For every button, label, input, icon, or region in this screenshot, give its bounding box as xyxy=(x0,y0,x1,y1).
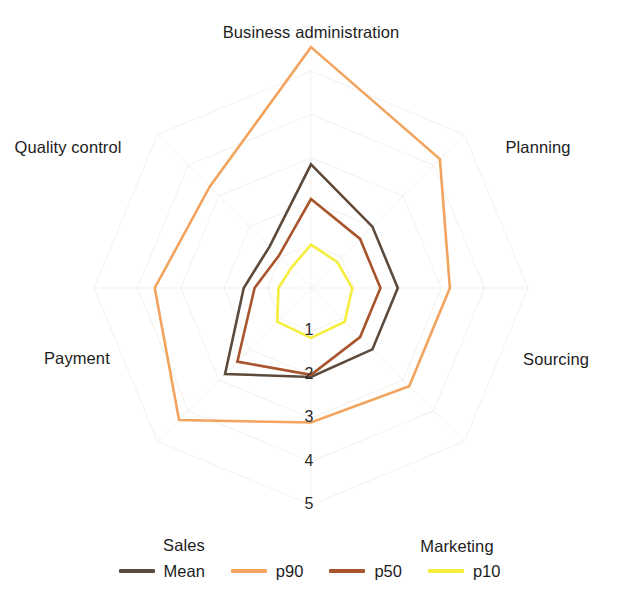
legend-item-mean[interactable]: Mean xyxy=(119,563,205,580)
radial-tick-2: 2 xyxy=(305,366,314,382)
legend-label-mean: Mean xyxy=(164,563,205,580)
legend-swatch-p10 xyxy=(428,569,464,573)
legend-swatch-mean xyxy=(119,569,155,573)
radial-tick-5: 5 xyxy=(305,496,314,512)
axis-label-payment: Payment xyxy=(44,350,110,367)
axis-label-marketing: Marketing xyxy=(420,538,493,555)
series-p90 xyxy=(155,47,450,422)
axis-label-sales: Sales xyxy=(163,537,205,554)
radar-series-layer xyxy=(155,47,450,422)
grid-spoke xyxy=(158,288,311,441)
legend-label-p10: p10 xyxy=(473,563,501,580)
axis-label-sourcing: Sourcing xyxy=(523,351,589,368)
legend-item-p50[interactable]: p50 xyxy=(329,563,402,580)
radial-tick-4: 4 xyxy=(305,453,314,469)
legend-swatch-p50 xyxy=(329,569,365,573)
series-p50 xyxy=(237,199,380,375)
legend-item-p10[interactable]: p10 xyxy=(428,563,501,580)
legend-item-p90[interactable]: p90 xyxy=(231,563,304,580)
radar-gridlines xyxy=(94,71,528,505)
legend-label-p50: p50 xyxy=(374,563,402,580)
legend-label-p90: p90 xyxy=(276,563,304,580)
axis-label-business-administration: Business administration xyxy=(223,24,400,41)
radial-tick-3: 3 xyxy=(305,409,314,425)
chart-legend: Meanp90p50p10 xyxy=(0,563,619,580)
axis-label-quality-control: Quality control xyxy=(15,139,122,156)
axis-label-planning: Planning xyxy=(505,139,570,156)
radar-chart: Business administrationPlanningSourcingM… xyxy=(0,0,619,593)
legend-swatch-p90 xyxy=(231,569,267,573)
radial-tick-1: 1 xyxy=(305,322,314,338)
